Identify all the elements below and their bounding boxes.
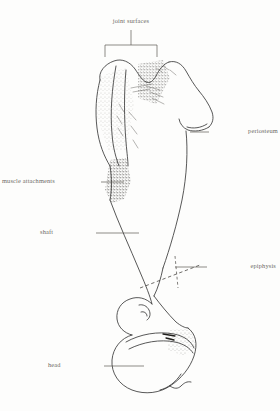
neck-to-head-crest xyxy=(154,296,188,328)
anatomy-figure: joint surfaces muscle attachments shaft … xyxy=(0,0,280,411)
lateral-flare xyxy=(179,119,209,131)
texture-patches xyxy=(95,58,201,360)
bone-diagram-svg xyxy=(0,0,280,411)
head-stipple xyxy=(165,326,201,360)
flare-inner-lip xyxy=(187,124,207,128)
epiphyseal-line-group xyxy=(140,256,200,288)
label-muscle-attachments: muscle attachments xyxy=(2,178,99,184)
neck-contour xyxy=(154,268,163,296)
epiphyseal-dashed-line-upper xyxy=(175,256,178,288)
proximal-right-knob xyxy=(169,61,199,91)
epiphyseal-dashed-line xyxy=(140,265,200,288)
superior-right-border xyxy=(199,91,213,127)
muscle-attachment-stipple xyxy=(102,155,136,207)
label-epiphysis: epiphysis xyxy=(210,263,276,269)
joint-surface-right-stipple xyxy=(136,58,174,104)
label-joint-surfaces: joint surfaces xyxy=(96,18,166,24)
label-periosteum: periosteum xyxy=(212,128,278,134)
tubercle-notch-inner xyxy=(141,312,147,316)
label-shaft: shaft xyxy=(40,229,93,235)
label-head: head xyxy=(48,362,101,368)
shaft-left-border xyxy=(110,200,152,304)
shaft-right-border xyxy=(163,131,187,268)
